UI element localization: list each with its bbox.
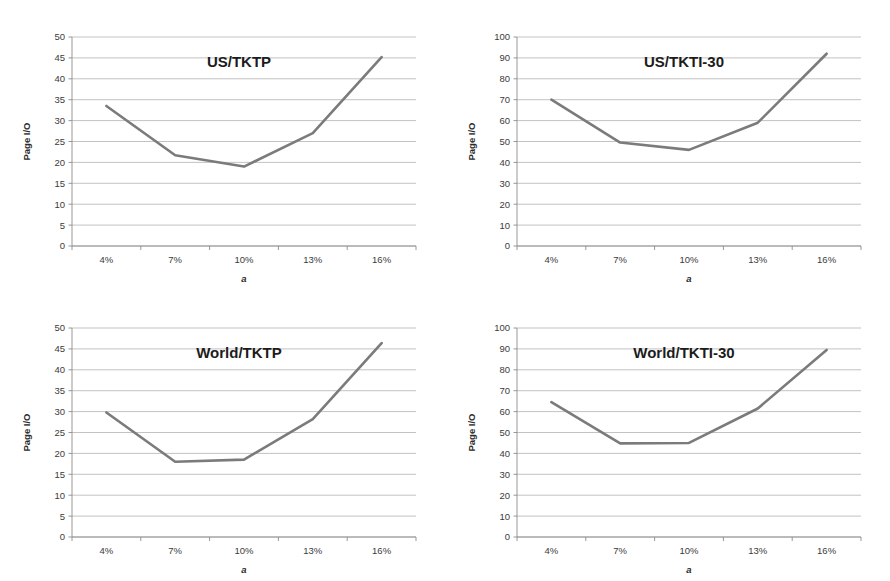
y-axis-tick-label: 80 [499,364,510,375]
y-axis-tick-label: 15 [54,469,65,480]
y-axis-tick-label: 50 [499,136,510,147]
y-axis-title: Page I/O [466,413,477,451]
y-axis-tick-label: 60 [499,115,510,126]
chart-svg-world-tktp: 051015202530354045504%7%10%13%16%World/T… [0,291,445,581]
y-axis-tick-label: 10 [54,490,65,501]
chart-panel-us-tktp: 051015202530354045504%7%10%13%16%US/TKTP… [0,0,445,290]
y-axis-tick-label: 90 [499,343,510,354]
y-axis-tick-label: 60 [499,406,510,417]
y-axis-tick-label: 70 [499,385,510,396]
chart-panel-us-tkti-30: 01020304050607080901004%7%10%13%16%US/TK… [445,0,890,290]
x-axis-tick-label: 4% [100,545,114,556]
y-axis-tick-label: 100 [494,322,510,333]
y-axis-tick-label: 40 [499,157,510,168]
y-axis-tick-label: 20 [499,199,510,210]
x-axis-title: a [241,273,246,284]
chart-panel-world-tkti-30: 01020304050607080901004%7%10%13%16%World… [445,291,890,581]
chart-svg-world-tkti-30: 01020304050607080901004%7%10%13%16%World… [445,291,890,581]
chart-title: World/TKTI-30 [633,344,734,361]
x-axis-tick-label: 7% [168,545,182,556]
x-axis-tick-label: 13% [748,545,768,556]
series-line [551,350,826,443]
y-axis-tick-label: 100 [494,31,510,42]
y-axis-tick-label: 25 [54,427,65,438]
chart-svg-us-tktp: 051015202530354045504%7%10%13%16%US/TKTP… [0,0,445,290]
y-axis-tick-label: 30 [54,115,65,126]
y-axis-tick-label: 40 [54,364,65,375]
chart-title: US/TKTI-30 [644,53,724,70]
y-axis-tick-label: 0 [505,531,510,542]
y-axis-tick-label: 70 [499,94,510,105]
x-axis-tick-label: 16% [817,254,837,265]
y-axis-tick-label: 25 [54,136,65,147]
x-axis-tick-label: 13% [748,254,768,265]
y-axis-tick-label: 50 [499,427,510,438]
y-axis-tick-label: 20 [54,448,65,459]
y-axis-tick-label: 0 [60,531,65,542]
chart-title: US/TKTP [207,53,271,70]
y-axis-tick-label: 80 [499,73,510,84]
y-axis-tick-label: 20 [499,490,510,501]
y-axis-tick-label: 30 [499,178,510,189]
y-axis-tick-label: 10 [499,511,510,522]
x-axis-tick-label: 10% [679,545,699,556]
y-axis-title: Page I/O [466,122,477,160]
y-axis-tick-label: 0 [60,240,65,251]
y-axis-title: Page I/O [21,122,32,160]
x-axis-tick-label: 7% [613,545,627,556]
chart-title: World/TKTP [196,344,282,361]
x-axis-tick-label: 10% [679,254,699,265]
y-axis-tick-label: 45 [54,343,65,354]
y-axis-tick-label: 35 [54,385,65,396]
y-axis-tick-label: 10 [499,220,510,231]
x-axis-title: a [686,564,691,575]
x-axis-tick-label: 16% [372,254,392,265]
y-axis-tick-label: 0 [505,240,510,251]
x-axis-tick-label: 16% [372,545,392,556]
y-axis-tick-label: 20 [54,157,65,168]
x-axis-tick-label: 4% [545,254,559,265]
y-axis-title: Page I/O [21,413,32,451]
chart-grid: 051015202530354045504%7%10%13%16%US/TKTP… [0,0,890,581]
y-axis-tick-label: 50 [54,31,65,42]
y-axis-tick-label: 45 [54,52,65,63]
x-axis-title: a [686,273,691,284]
y-axis-tick-label: 50 [54,322,65,333]
x-axis-tick-label: 13% [303,254,323,265]
chart-svg-us-tkti-30: 01020304050607080901004%7%10%13%16%US/TK… [445,0,890,290]
series-line [106,57,381,167]
y-axis-tick-label: 40 [54,73,65,84]
x-axis-title: a [241,564,246,575]
x-axis-tick-label: 7% [613,254,627,265]
x-axis-tick-label: 4% [100,254,114,265]
x-axis-tick-label: 10% [234,254,254,265]
y-axis-tick-label: 5 [60,220,65,231]
y-axis-tick-label: 10 [54,199,65,210]
y-axis-tick-label: 40 [499,448,510,459]
x-axis-tick-label: 16% [817,545,837,556]
x-axis-tick-label: 10% [234,545,254,556]
chart-panel-world-tktp: 051015202530354045504%7%10%13%16%World/T… [0,291,445,581]
x-axis-tick-label: 7% [168,254,182,265]
y-axis-tick-label: 5 [60,511,65,522]
y-axis-tick-label: 15 [54,178,65,189]
x-axis-tick-label: 13% [303,545,323,556]
y-axis-tick-label: 90 [499,52,510,63]
y-axis-tick-label: 35 [54,94,65,105]
x-axis-tick-label: 4% [545,545,559,556]
y-axis-tick-label: 30 [54,406,65,417]
y-axis-tick-label: 30 [499,469,510,480]
